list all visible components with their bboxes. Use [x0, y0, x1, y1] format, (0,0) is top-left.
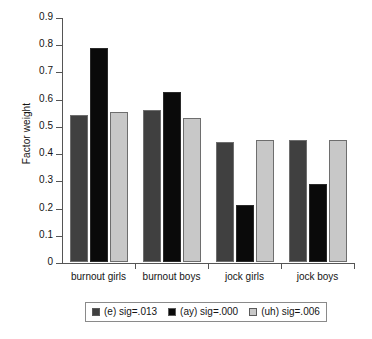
y-axis-title: Factor weight	[21, 64, 32, 204]
y-tick-label: 0.3	[39, 174, 53, 185]
legend-label: (e) sig=.013	[104, 306, 157, 317]
y-tick: 0	[56, 263, 62, 264]
x-axis-label: burnout boys	[135, 271, 208, 282]
x-tick	[281, 263, 282, 269]
y-tick-label: 0	[47, 256, 53, 267]
bar	[70, 115, 88, 262]
bar	[90, 48, 108, 262]
bar	[309, 184, 327, 262]
y-tick-label: 0.6	[39, 93, 53, 104]
legend-swatch-icon	[249, 308, 257, 316]
bar-chart-figure: Factor weight 0.90.80.70.60.50.40.30.20.…	[0, 0, 372, 339]
legend-item: (ay) sig=.000	[168, 306, 238, 317]
bar-group	[135, 17, 208, 262]
bar	[289, 140, 307, 263]
bar	[143, 110, 161, 262]
bar	[256, 140, 274, 263]
bar-group	[62, 17, 135, 262]
x-axis-label: burnout girls	[62, 271, 135, 282]
y-tick-label: 0.5	[39, 120, 53, 131]
bar-group	[281, 17, 354, 262]
y-tick-label: 0.4	[39, 147, 53, 158]
y-tick-label: 0.7	[39, 65, 53, 76]
bar-group	[208, 17, 281, 262]
legend-swatch-icon	[168, 308, 176, 316]
y-tick-label: 0.1	[39, 229, 53, 240]
x-tick	[135, 263, 136, 269]
x-tick	[354, 263, 355, 269]
plot-area: 0.90.80.70.60.50.40.30.20.10 burnout gir…	[62, 18, 354, 263]
y-tick-label: 0.2	[39, 202, 53, 213]
x-axis-label: jock boys	[281, 271, 354, 282]
legend-label: (uh) sig=.006	[261, 306, 320, 317]
y-tick-label: 0.9	[39, 11, 53, 22]
legend-item: (uh) sig=.006	[249, 306, 320, 317]
bar	[163, 92, 181, 262]
y-tick-label: 0.8	[39, 38, 53, 49]
bar	[236, 205, 254, 262]
chart-legend: (e) sig=.013(ay) sig=.000(uh) sig=.006	[85, 302, 327, 322]
legend-label: (ay) sig=.000	[180, 306, 238, 317]
legend-item: (e) sig=.013	[92, 306, 157, 317]
legend-swatch-icon	[92, 308, 100, 316]
bar	[216, 142, 234, 262]
x-tick	[208, 263, 209, 269]
bar	[329, 140, 347, 263]
bar	[183, 118, 201, 262]
bar	[110, 112, 128, 262]
x-axis-label: jock girls	[208, 271, 281, 282]
